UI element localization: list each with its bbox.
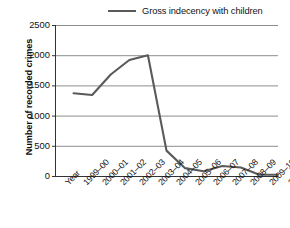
x-tick-label-year: Year	[63, 168, 82, 187]
chart-figure: Gross indecency with children Number of …	[0, 0, 290, 228]
x-axis-tick-labels: Year1999–002000–012001–022002–032003–042…	[0, 0, 290, 228]
